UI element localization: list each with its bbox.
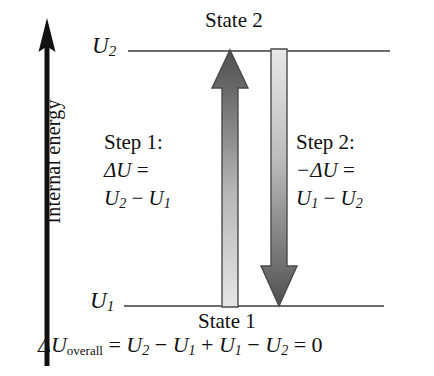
- step-2-equation-line-2: U1 − U2: [296, 184, 363, 214]
- overall-equation: ΔUoverall = U2 − U1 + U1 − U2 = 0: [38, 332, 323, 359]
- overall-term-2-sub: 1: [189, 343, 196, 358]
- level-tag-u1-subscript: 1: [107, 298, 115, 314]
- overall-equals-2: =: [288, 332, 311, 357]
- overall-result: 0: [312, 332, 323, 357]
- overall-equals-1: =: [103, 332, 126, 357]
- step-1-term-b: U: [149, 186, 164, 210]
- overall-term-3-sub: 1: [235, 343, 242, 358]
- step-1-equation-line-1: ΔU =: [104, 156, 171, 184]
- level-tag-u1: U1: [90, 288, 114, 315]
- step-1-term-a: U: [104, 186, 119, 210]
- step-1-minus: −: [126, 186, 148, 210]
- overall-op-3: −: [242, 332, 265, 357]
- step-2-term-b: U: [341, 186, 356, 210]
- level-tag-u2-subscript: 2: [109, 43, 117, 59]
- step-1-term-b-sub: 1: [164, 196, 171, 211]
- step-2-neg-delta-u: −ΔU: [296, 158, 338, 182]
- step-1-title: Step 1:: [104, 128, 171, 156]
- step-2-equals: =: [338, 158, 355, 182]
- step-2-term-b-sub: 2: [356, 196, 363, 211]
- state-2-label: State 2: [205, 8, 263, 33]
- overall-op-2: +: [196, 332, 219, 357]
- step-2-text-block: Step 2: −ΔU = U1 − U2: [296, 128, 363, 214]
- step-1-delta-u: ΔU: [104, 158, 132, 182]
- overall-term-2: U: [173, 332, 189, 357]
- step-1-text-block: Step 1: ΔU = U2 − U1: [104, 128, 171, 214]
- level-tag-u2: U2: [92, 33, 116, 60]
- step-1-equals: =: [132, 158, 149, 182]
- overall-term-1: U: [126, 332, 142, 357]
- axis-label: Internal energy: [42, 52, 65, 272]
- step-2-term-a: U: [296, 186, 311, 210]
- step-2-minus: −: [318, 186, 340, 210]
- step-2-equation-line-1: −ΔU =: [296, 156, 363, 184]
- level-tag-u2-symbol: U: [92, 33, 109, 58]
- state-1-label: State 1: [198, 309, 256, 334]
- step1-up-arrow: [208, 48, 252, 308]
- level-line-u1: [124, 305, 384, 307]
- overall-delta-u: ΔU: [38, 332, 67, 357]
- overall-term-3: U: [219, 332, 235, 357]
- overall-op-1: −: [149, 332, 172, 357]
- overall-subscript: overall: [67, 343, 103, 358]
- energy-level-diagram: Internal energy U2 State 2 U1 State 1 St…: [0, 0, 434, 376]
- overall-term-4: U: [265, 332, 281, 357]
- step-1-equation-line-2: U2 − U1: [104, 184, 171, 214]
- step-2-title: Step 2:: [296, 128, 363, 156]
- level-tag-u1-symbol: U: [90, 288, 107, 313]
